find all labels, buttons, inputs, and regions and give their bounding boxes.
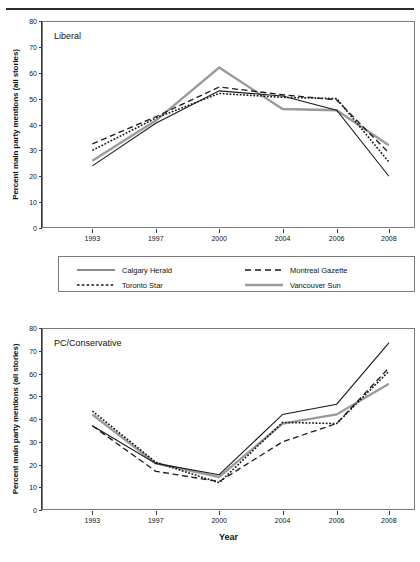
y-tick-label: 0 — [18, 507, 37, 514]
y-tick-label: 40 — [18, 416, 37, 423]
x-tick-label: 2004 — [263, 517, 303, 524]
y-tick-label: 30 — [18, 438, 37, 445]
y-axis-title: Percent main party mentions (all stories… — [11, 328, 20, 510]
plot-area-pc-conservative — [42, 328, 415, 510]
panel-title: PC/Conservative — [54, 338, 122, 348]
y-tick-label: 50 — [18, 393, 37, 400]
y-tick-label: 80 — [18, 325, 37, 332]
y-axis-line — [41, 328, 42, 510]
x-tick-mark — [219, 511, 220, 515]
x-tick-mark — [156, 511, 157, 515]
y-tick-label: 60 — [18, 370, 37, 377]
x-tick-label: 1997 — [136, 517, 176, 524]
x-tick-mark — [337, 511, 338, 515]
y-tick-label: 10 — [18, 484, 37, 491]
y-tick-mark — [39, 510, 42, 511]
figure-root: Liberal010203040506070801993199720002004… — [0, 0, 420, 562]
x-tick-label: 2008 — [369, 517, 409, 524]
y-tick-label: 20 — [18, 461, 37, 468]
y-tick-label: 70 — [18, 347, 37, 354]
x-tick-label: 2000 — [199, 517, 239, 524]
x-tick-mark — [389, 511, 390, 515]
panel-pc-conservative: PC/Conservative0102030405060708019931997… — [0, 0, 420, 562]
x-tick-label: 1993 — [72, 517, 112, 524]
x-tick-label: 2006 — [317, 517, 357, 524]
x-axis-title: Year — [42, 532, 415, 542]
x-tick-mark — [92, 511, 93, 515]
x-tick-mark — [283, 511, 284, 515]
